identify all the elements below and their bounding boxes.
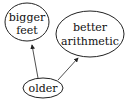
- edge-older-to-better-arithmetic-arrow-icon: [58, 58, 78, 80]
- node-better-arithmetic-line2: arithmetic: [61, 35, 119, 48]
- node-older-label: older: [29, 82, 59, 95]
- node-bigger-feet-line1: bigger: [9, 11, 46, 24]
- node-older: older: [23, 78, 63, 98]
- node-bigger-feet-line2: feet: [16, 24, 38, 37]
- causal-diagram: bigger feet better arithmetic older: [0, 0, 130, 104]
- edge-older-to-bigger-feet-arrow-icon: [32, 45, 38, 78]
- node-bigger-feet: bigger feet: [5, 3, 49, 41]
- node-better-arithmetic-line1: better: [73, 21, 108, 34]
- node-better-arithmetic: better arithmetic: [56, 11, 124, 57]
